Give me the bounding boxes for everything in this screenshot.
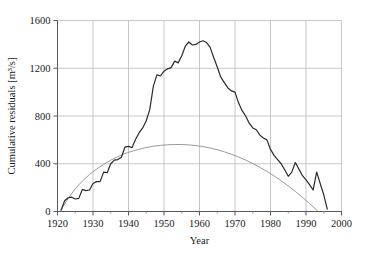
axis-ticks [54, 21, 342, 216]
x-tick-label: 1930 [83, 218, 104, 229]
cumulative-residuals-chart: 0400800120016001920193019401950196019701… [0, 0, 368, 254]
grid-lines [58, 21, 342, 212]
x-tick-label: 1950 [154, 218, 175, 229]
x-axis-title: Year [190, 235, 210, 246]
y-tick-label: 800 [35, 111, 51, 122]
x-tick-label: 1980 [260, 218, 281, 229]
y-tick-label: 1600 [30, 15, 51, 26]
y-axis-title: Cumulative residuals [m³/s] [6, 58, 17, 175]
chart-figure: 0400800120016001920193019401950196019701… [0, 0, 368, 254]
x-tick-label: 2000 [331, 218, 352, 229]
y-tick-label: 1200 [30, 63, 51, 74]
x-tick-label: 1960 [189, 218, 210, 229]
axis-tick-labels: 0400800120016001920193019401950196019701… [30, 15, 353, 229]
x-tick-label: 1970 [225, 218, 246, 229]
x-tick-label: 1940 [118, 218, 139, 229]
y-tick-label: 0 [45, 206, 50, 217]
y-tick-label: 400 [35, 158, 51, 169]
x-tick-label: 1920 [47, 218, 68, 229]
x-tick-label: 1990 [296, 218, 317, 229]
